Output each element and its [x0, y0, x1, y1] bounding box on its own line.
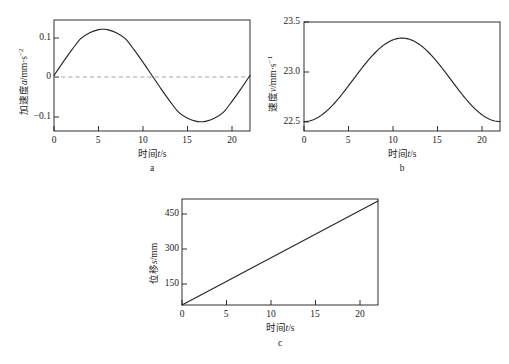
panel-a-caption: a — [132, 163, 172, 173]
panel-c-ylabel-prefix: 位移 — [149, 264, 159, 284]
panel-b-ylabel-symbol: v — [268, 88, 278, 92]
panel-c-xlabel-unit: /s — [288, 323, 294, 333]
panel-a-acceleration-curve — [54, 29, 250, 122]
panel-a-xtick-1: 5 — [88, 136, 108, 146]
panel-a: 0.1 0 −0.1 0 5 10 15 20 时间t/s 加速度a/mm·s−… — [0, 0, 255, 182]
panel-b-x-ticks — [304, 126, 482, 131]
panel-b-xtick-3: 15 — [427, 136, 447, 146]
panel-c-xtick-2: 10 — [261, 310, 281, 320]
panel-b-ylabel-exponent: −1 — [266, 56, 274, 63]
panel-a-xtick-3: 15 — [177, 136, 197, 146]
panel-a-x-ticks — [54, 126, 232, 131]
panel-a-xlabel-prefix: 时间 — [138, 149, 158, 159]
panel-b-ylabel-unit: /mm·s — [268, 64, 278, 88]
panel-b-velocity-curve-final — [304, 38, 500, 121]
panel-c-xtick-3: 15 — [305, 310, 325, 320]
panel-c-xlabel-prefix: 时间 — [266, 323, 286, 333]
panel-a-xlabel-unit: /s — [160, 149, 166, 159]
panel-a-ylabel-unit: /mm·s — [19, 56, 29, 80]
panel-c-xtick-0: 0 — [172, 310, 192, 320]
panel-b-y-axis-title: 速度v/mm·s−1 — [265, 56, 279, 112]
panel-c-xtick-1: 5 — [216, 310, 236, 320]
panel-b-ytick-2: 22.5 — [269, 117, 300, 127]
panel-b-xtick-2: 10 — [383, 136, 403, 146]
panel-b-caption: b — [382, 163, 422, 173]
panel-b-xlabel-unit: /s — [410, 149, 416, 159]
panel-a-xtick-4: 20 — [222, 136, 242, 146]
panel-a-ylabel-exponent: −2 — [17, 49, 25, 56]
panel-b-xlabel-prefix: 时间 — [388, 149, 408, 159]
panel-a-ylabel-prefix: 加速度 — [19, 85, 29, 115]
panel-b-x-axis-title: 时间t/s — [362, 150, 442, 160]
panel-c-ytick-0: 450 — [154, 209, 179, 219]
panel-c-x-axis-title: 时间t/s — [240, 324, 320, 334]
panel-c-y-axis-title: 位移s/mm — [146, 243, 160, 284]
panel-c: 450 300 150 0 5 10 15 20 时间t/s 位移s/mm c — [130, 182, 390, 364]
panel-a-y-ticks — [54, 38, 59, 117]
panel-c-ylabel-unit: /mm — [149, 243, 159, 260]
panel-c-xtick-4: 20 — [350, 310, 370, 320]
panel-a-ytick-0: 0.1 — [26, 33, 51, 43]
panel-c-ylabel-symbol: s — [149, 260, 159, 264]
panel-b-ytick-0: 23.5 — [269, 17, 300, 27]
panel-c-x-ticks — [182, 300, 360, 305]
panel-b-y-ticks — [304, 22, 309, 122]
figure-root: 0.1 0 −0.1 0 5 10 15 20 时间t/s 加速度a/mm·s−… — [0, 0, 509, 364]
panel-b-xtick-0: 0 — [294, 136, 314, 146]
panel-b-ylabel-prefix: 速度 — [268, 92, 278, 112]
panel-b-xtick-4: 20 — [472, 136, 492, 146]
panel-b-xtick-1: 5 — [338, 136, 358, 146]
panel-a-y-axis-title: 加速度a/mm·s−2 — [16, 49, 30, 115]
panel-c-displacement-line — [182, 201, 378, 305]
panel-a-ylabel-symbol: a — [19, 80, 29, 85]
panel-c-y-ticks — [182, 214, 187, 284]
panel-c-caption: c — [260, 338, 300, 348]
panel-a-xtick-0: 0 — [44, 136, 64, 146]
panel-a-x-axis-title: 时间t/s — [112, 150, 192, 160]
panel-b: 23.5 23.0 22.5 0 5 10 15 20 时间t/s 速度v/mm… — [255, 0, 509, 182]
panel-a-xtick-2: 10 — [133, 136, 153, 146]
